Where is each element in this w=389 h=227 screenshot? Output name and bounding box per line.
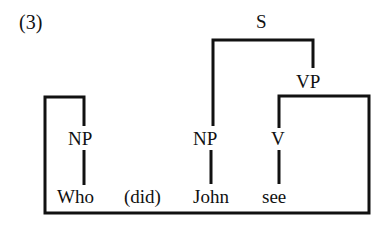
node-np-wh: NP [68,129,92,148]
word-did: (did) [124,187,161,206]
word-see: see [262,187,286,206]
node-v: V [271,129,285,148]
node-s: S [256,12,267,31]
node-vp: VP [296,72,320,91]
node-np-subj: NP [193,129,217,148]
word-who: Who [57,187,94,206]
word-john: John [193,187,229,206]
